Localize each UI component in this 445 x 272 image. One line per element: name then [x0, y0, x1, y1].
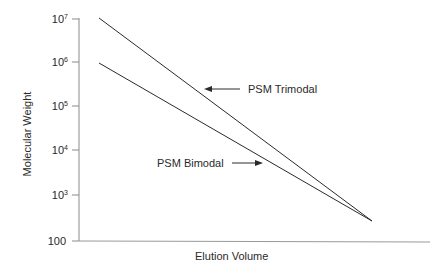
x-axis — [79, 241, 430, 242]
y-tick-label: 107 — [38, 13, 68, 25]
y-tick-label: 100 — [36, 235, 66, 247]
y-ticks — [72, 19, 79, 241]
trimodal-arrow-icon — [204, 86, 240, 92]
x-axis-label: Elution Volume — [195, 250, 268, 262]
y-tick-label: 106 — [38, 56, 68, 68]
bimodal-arrow-icon — [232, 160, 263, 166]
y-tick-label: 104 — [38, 144, 68, 156]
series-psm-bimodal — [99, 63, 372, 221]
y-tick-label: 103 — [38, 189, 68, 201]
y-tick-label: 105 — [38, 100, 68, 112]
chart-canvas — [0, 0, 445, 272]
y-axis-label: Molecular Weight — [21, 79, 33, 189]
annotation-psm-trimodal: PSM Trimodal — [248, 83, 317, 95]
series-psm-trimodal — [99, 18, 372, 221]
annotation-psm-bimodal: PSM Bimodal — [157, 157, 224, 169]
